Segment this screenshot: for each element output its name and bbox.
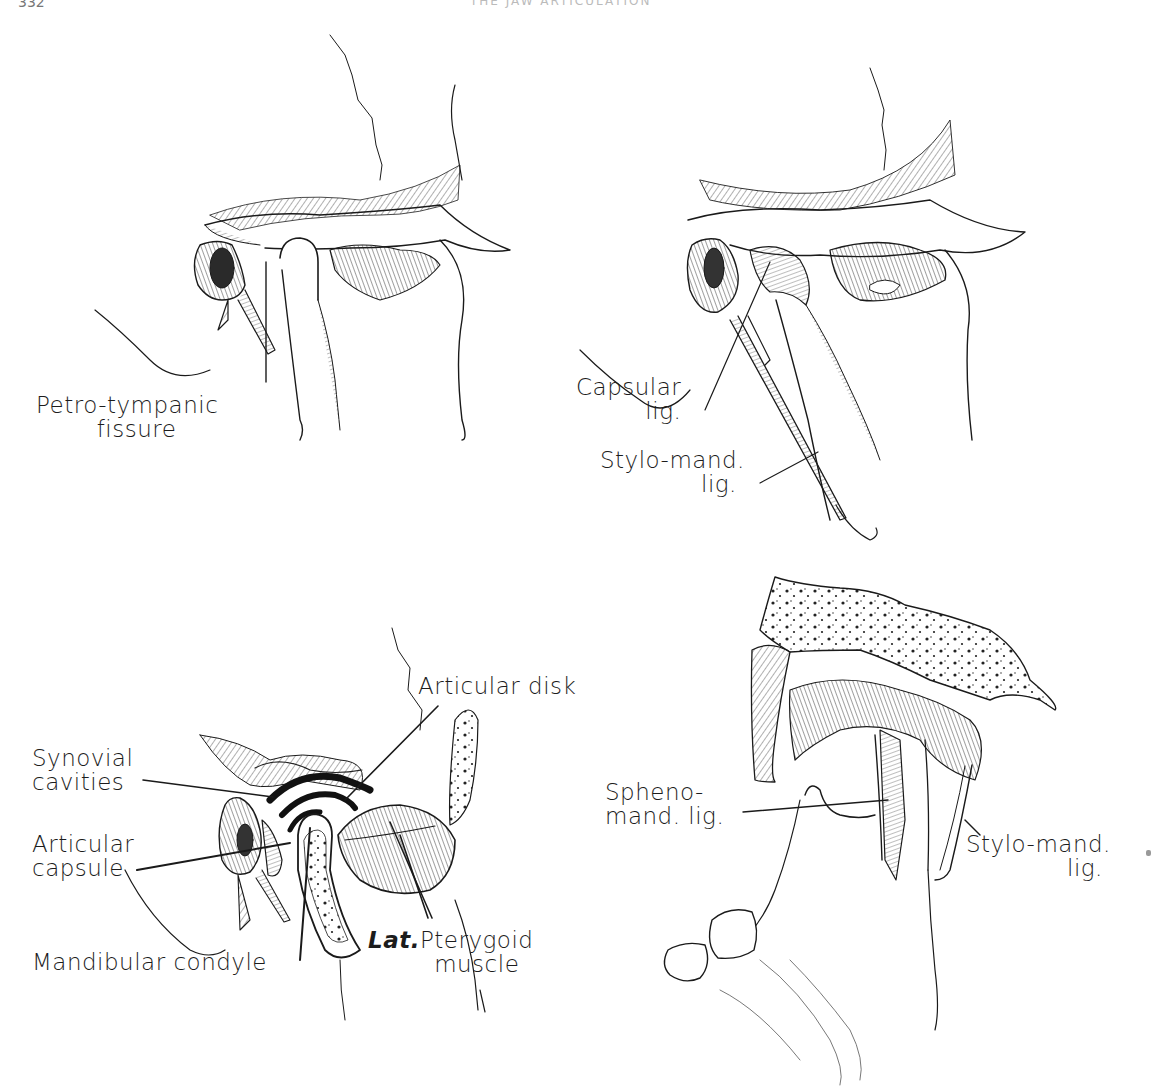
- label-articular-capsule: Articular capsule: [32, 832, 134, 880]
- label-line-1: Synovial: [32, 745, 133, 771]
- label-line-1: Mandibular condyle: [32, 949, 267, 975]
- label-line-2: lig.: [576, 399, 681, 423]
- label-synovial-cavities: Synovial cavities: [32, 746, 133, 794]
- label-line-1: Spheno-: [605, 779, 704, 805]
- label-line-2: lig.: [600, 472, 745, 496]
- label-line-1: Articular disk: [418, 673, 576, 699]
- label-line-2: muscle: [368, 952, 533, 976]
- label-articular-disk: Articular disk: [418, 674, 576, 698]
- label-petro-tympanic-fissure: Petro-tympanic fissure: [36, 393, 218, 441]
- label-line-1: Articular: [32, 831, 134, 857]
- label-stylo-mand-lig-medial: Stylo-mand. lig.: [966, 832, 1111, 880]
- label-line-1: Stylo-mand.: [966, 831, 1111, 857]
- label-prefix: Lat.: [368, 927, 420, 953]
- label-mandibular-condyle: Mandibular condyle: [32, 950, 267, 974]
- label-line-2: fissure: [36, 417, 218, 441]
- label-capsular-lig: Capsular lig.: [576, 375, 681, 423]
- label-lat-pterygoid-muscle: Lat.Pterygoid muscle: [368, 928, 533, 976]
- label-spheno-mand-lig: Spheno- mand. lig.: [605, 780, 724, 828]
- figure-top-left: [95, 35, 510, 440]
- label-line-2: cavities: [32, 770, 133, 794]
- label-line-2: lig.: [966, 856, 1111, 880]
- label-stylo-mand-lig-top: Stylo-mand. lig.: [600, 448, 745, 496]
- label-line-1: Capsular: [576, 374, 681, 400]
- label-line-1: Petro-tympanic: [36, 392, 218, 418]
- label-line-1: Stylo-mand.: [600, 447, 745, 473]
- label-line-1: Pterygoid: [420, 927, 533, 953]
- scan-speck: [1146, 850, 1151, 856]
- anatomy-plate-page: 332 THE JAW ARTICULATION: [0, 0, 1154, 1090]
- illustration-canvas: [0, 0, 1154, 1090]
- label-line-2: capsule: [32, 856, 134, 880]
- label-line-2: mand. lig.: [605, 804, 724, 828]
